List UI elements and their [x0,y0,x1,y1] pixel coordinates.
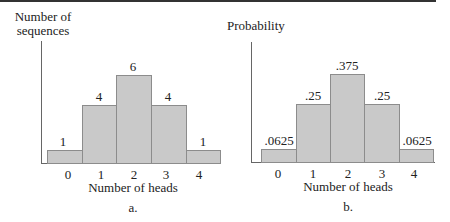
chart-a-value-label: 4 [96,89,103,105]
chart-a-value-label: 1 [200,134,207,150]
chart-b-x-tick: 4 [411,166,418,182]
chart-a-y-axis [41,41,42,164]
chart-b-bar-0 [261,149,297,163]
chart-a-x-tick: 4 [196,167,203,183]
chart-b-value-label: .25 [374,88,390,104]
chart-b-y-axis-label: Probability [227,19,285,33]
chart-b-value-label: .25 [305,88,321,104]
chart-a-value-label: 1 [60,134,67,150]
chart-a-bar-2 [116,75,152,164]
chart-b-x-tick: 0 [275,166,282,182]
chart-b-x-axis-label: Number of heads [303,179,393,195]
chart-a-value-label: 6 [130,59,137,75]
chart-a-panel-label: a. [128,200,137,216]
top-rule [0,0,436,2]
chart-b-panel-label: b. [343,199,353,215]
y-label-line-2: sequences [10,24,76,38]
chart-b-bar-3 [364,104,400,163]
chart-b-value-label: .0625 [402,133,431,149]
chart-a-x-axis-label: Number of heads [88,180,178,196]
chart-a-bar-3 [151,105,187,164]
chart-b-bar-4 [399,149,434,163]
chart-b-bar-1 [296,104,331,163]
chart-a-bar-4 [186,150,221,164]
chart-b-value-label: .0625 [264,133,293,149]
chart-b-value-label: .375 [336,58,359,74]
chart-a-bar-0 [47,150,83,164]
chart-b-y-axis [251,42,252,163]
chart-a-bar-1 [82,105,117,164]
chart-a-value-label: 4 [165,89,172,105]
chart-a-y-axis-label: Number of sequences [10,10,76,38]
chart-b-bar-2 [330,74,365,163]
chart-a-x-tick: 0 [65,167,72,183]
y-label-line-1: Number of [10,10,76,24]
